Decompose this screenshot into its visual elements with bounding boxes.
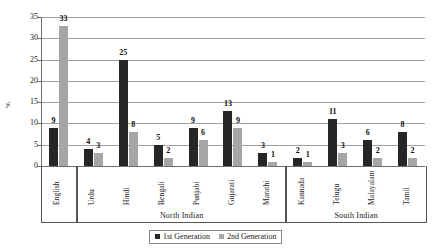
group-band-label: North Indian	[77, 211, 286, 220]
bar: 2	[293, 158, 302, 167]
bar: 8	[129, 132, 138, 166]
bar-group: 43	[76, 17, 111, 166]
bar: 2	[408, 158, 417, 167]
bar-group: 21	[285, 17, 320, 166]
bar-group: 258	[111, 17, 146, 166]
bar-group: 62	[355, 17, 390, 166]
bar: 25	[119, 60, 128, 166]
bar-value-label: 3	[261, 142, 265, 150]
chart-legend: 1st Generation2nd Generation	[149, 230, 282, 244]
legend-swatch	[155, 234, 160, 239]
bar: 5	[154, 145, 163, 166]
bar: 9	[49, 128, 58, 166]
legend-swatch	[219, 234, 224, 239]
bar-value-label: 9	[191, 117, 195, 125]
legend-item[interactable]: 2nd Generation	[219, 232, 277, 241]
bar: 13	[223, 111, 232, 166]
bar-group: 139	[216, 17, 251, 166]
y-axis-ticks: 05101520253035	[12, 0, 38, 252]
bar-value-label: 1	[306, 151, 310, 159]
bar-value-label: 6	[366, 129, 370, 137]
bar-value-label: 2	[166, 147, 170, 155]
bar: 2	[164, 158, 173, 167]
bar: 8	[398, 132, 407, 166]
bar-value-label: 9	[236, 117, 240, 125]
bar-group: 113	[320, 17, 355, 166]
y-axis-tick-label: 35	[16, 13, 38, 21]
bar: 6	[363, 140, 372, 166]
bar-value-label: 5	[156, 134, 160, 142]
bar: 2	[373, 158, 382, 167]
group-band-label: South Indian	[286, 211, 426, 220]
bar: 6	[199, 140, 208, 166]
y-axis-tick-label: 0	[16, 162, 38, 170]
bar-group: 82	[390, 17, 425, 166]
y-axis-tick-label: 20	[16, 77, 38, 85]
bar-group: 52	[146, 17, 181, 166]
legend-label: 2nd Generation	[227, 232, 277, 241]
y-axis-tick-label: 30	[16, 34, 38, 42]
bar-group: 933	[41, 17, 76, 166]
bar-value-label: 2	[411, 147, 415, 155]
group-band	[41, 166, 78, 223]
bar-value-label: 1	[271, 151, 275, 159]
group-bands: North IndianSouth Indian	[41, 167, 425, 223]
bar-value-label: 11	[329, 108, 337, 116]
bar-value-label: 2	[376, 147, 380, 155]
bar-value-label: 8	[401, 121, 405, 129]
bar: 4	[84, 149, 93, 166]
bar-value-label: 3	[96, 142, 100, 150]
y-axis-tick-label: 10	[16, 119, 38, 127]
bar-value-label: 9	[51, 117, 55, 125]
bar-value-label: 8	[131, 121, 135, 129]
y-axis-tick-label: 5	[16, 141, 38, 149]
bar-series-layer: 93343258529613931211136282	[41, 17, 425, 166]
bar: 33	[59, 26, 68, 166]
bar-value-label: 33	[59, 15, 67, 23]
bar-value-label: 13	[224, 100, 232, 108]
legend-label: 1st Generation	[163, 232, 210, 241]
bar: 3	[94, 153, 103, 166]
bar-value-label: 25	[119, 49, 127, 57]
bar-value-label: 6	[201, 129, 205, 137]
y-axis-tick-label: 25	[16, 56, 38, 64]
bar-value-label: 4	[86, 138, 90, 146]
bar-value-label: 2	[296, 147, 300, 155]
bar: 9	[189, 128, 198, 166]
group-band: South Indian	[285, 166, 427, 223]
bar: 9	[233, 128, 242, 166]
legend-item[interactable]: 1st Generation	[155, 232, 210, 241]
y-axis-tick-label: 15	[16, 98, 38, 106]
bar-value-label: 3	[341, 142, 345, 150]
bar: 3	[338, 153, 347, 166]
bar: 3	[258, 153, 267, 166]
group-band: North Indian	[76, 166, 287, 223]
plot-area: 93343258529613931211136282	[41, 17, 425, 166]
bar-chart: % 05101520253035 93343258529613931211136…	[0, 0, 443, 252]
bar-group: 96	[181, 17, 216, 166]
y-axis-label: %	[4, 102, 12, 108]
bar: 11	[328, 119, 337, 166]
bar-group: 31	[250, 17, 285, 166]
